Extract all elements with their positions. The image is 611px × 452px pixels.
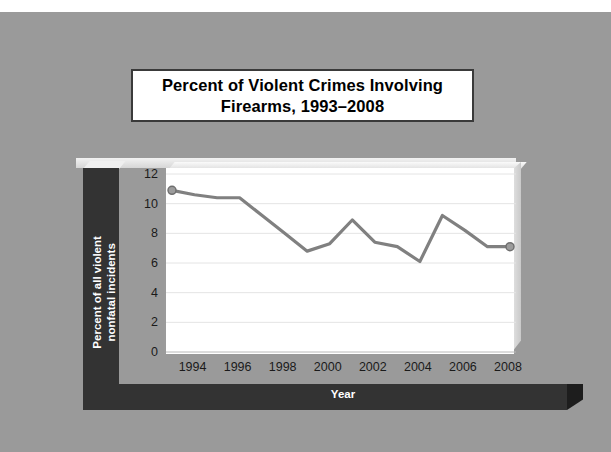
x-axis-band-bevel <box>567 384 583 410</box>
y-axis-tick: 0 <box>151 345 158 359</box>
y-axis-title-line-1: Percent of all violent <box>91 236 103 348</box>
page-title: Percent of Violent Crimes Involving Fire… <box>162 75 443 115</box>
y-axis-band: Percent of all violent nonfatal incident… <box>83 168 119 410</box>
x-axis-tick: 1998 <box>269 360 297 374</box>
x-axis-tick: 1996 <box>224 360 252 374</box>
x-axis-title: Year <box>119 388 567 400</box>
title-line-2: Firearms, 1993–2008 <box>221 97 384 115</box>
y-axis-tick: 6 <box>151 256 158 270</box>
x-axis-tick: 2008 <box>494 360 522 374</box>
x-axis-tick: 1994 <box>179 360 207 374</box>
plot-area <box>164 168 514 354</box>
y-axis-tick: 4 <box>151 286 158 300</box>
chart-container: Percent of all violent nonfatal incident… <box>76 158 516 410</box>
chart-title-box: Percent of Violent Crimes Involving Fire… <box>131 69 474 122</box>
x-axis-tick: 2000 <box>314 360 342 374</box>
x-axis-tick: 2002 <box>359 360 387 374</box>
x-axis-tick: 2006 <box>449 360 477 374</box>
y-axis-tick: 2 <box>151 315 158 329</box>
y-axis-tick: 10 <box>144 197 158 211</box>
plot-wrapper: 024681012 199419961998200020022004200620… <box>164 168 516 356</box>
slide-canvas: Percent of Violent Crimes Involving Fire… <box>0 12 611 452</box>
y-axis-title: Percent of all violent nonfatal incident… <box>90 187 119 397</box>
y-axis-title-line-2: nonfatal incidents <box>105 243 117 341</box>
y-axis-tick: 8 <box>151 226 158 240</box>
title-line-1: Percent of Violent Crimes Involving <box>162 76 443 94</box>
y-axis-tick: 12 <box>144 167 158 181</box>
x-axis-tick: 2004 <box>404 360 432 374</box>
line-chart-svg <box>166 168 516 354</box>
